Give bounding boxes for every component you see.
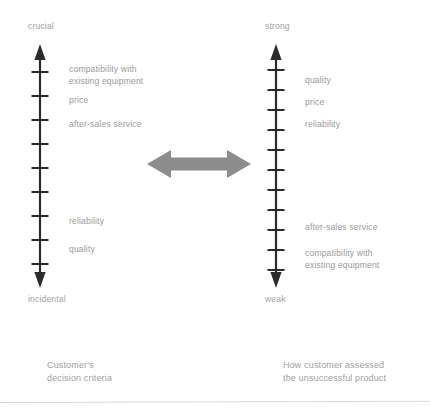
left-scale-item-quality: quality (69, 244, 95, 256)
right-scale-item-after-sales-service: after-sales service (305, 222, 378, 234)
left-scale-item-compatibility: compatibility with existing equipment (69, 64, 143, 87)
right-scale-axis (265, 44, 287, 288)
diagram-canvas: crucial compatibility with existing equi… (0, 0, 430, 408)
right-scale-bottom-label: weak (265, 294, 286, 306)
left-scale-item-after-sales-service: after-sales service (69, 119, 142, 131)
left-scale-caption: Customer's decision criteria (47, 359, 112, 384)
left-scale-item-price: price (69, 95, 88, 107)
right-scale-top-label: strong (265, 21, 290, 33)
left-axis-svg (29, 44, 51, 288)
left-scale-top-label: crucial (28, 21, 54, 33)
right-scale-item-quality: quality (305, 75, 331, 87)
bottom-divider (0, 401, 430, 403)
right-scale-item-compatibility: compatibility with existing equipment (305, 248, 379, 271)
right-scale-item-price: price (305, 97, 324, 109)
double-headed-arrow-icon (147, 148, 251, 180)
right-axis-svg (265, 44, 287, 288)
right-scale-caption: How customer assessed the unsuccessful p… (283, 359, 386, 384)
left-scale-axis (29, 44, 51, 288)
right-scale-item-reliability: reliability (305, 119, 340, 131)
left-scale-bottom-label: incidental (28, 294, 66, 306)
left-scale-item-reliability: reliability (69, 216, 104, 228)
